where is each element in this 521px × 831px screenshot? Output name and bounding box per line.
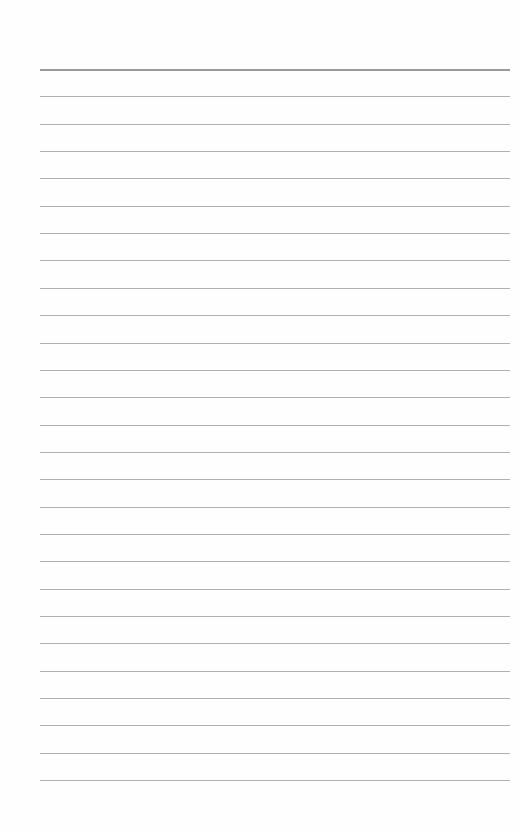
ruled-line [40, 753, 510, 754]
ruled-line [40, 452, 510, 453]
ruled-line [40, 96, 510, 97]
ruled-line [40, 725, 510, 726]
ruled-line [40, 589, 510, 590]
ruled-line [40, 507, 510, 508]
ruled-line [40, 425, 510, 426]
ruled-line [40, 233, 510, 234]
ruled-line [40, 534, 510, 535]
ruled-line [40, 698, 510, 699]
ruled-line [40, 206, 510, 207]
lined-paper-page [0, 0, 521, 831]
ruled-line [40, 260, 510, 261]
ruled-line [40, 124, 510, 125]
ruled-line [40, 643, 510, 644]
ruled-line [40, 178, 510, 179]
ruled-line [40, 671, 510, 672]
ruled-line [40, 479, 510, 480]
header-rule [40, 69, 510, 71]
ruled-line [40, 780, 510, 781]
ruled-line [40, 370, 510, 371]
ruled-line [40, 315, 510, 316]
ruled-line [40, 288, 510, 289]
ruled-line [40, 561, 510, 562]
ruled-line [40, 151, 510, 152]
ruled-line [40, 397, 510, 398]
ruled-line [40, 343, 510, 344]
ruled-line [40, 616, 510, 617]
